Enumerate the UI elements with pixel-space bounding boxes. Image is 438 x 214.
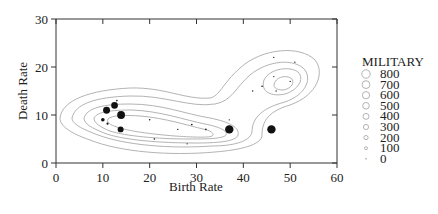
y-tick-label: 10 [35, 108, 48, 123]
data-point [294, 62, 295, 63]
data-point [225, 125, 233, 133]
data-point [154, 138, 156, 140]
x-tick-label: 60 [331, 170, 344, 185]
data-point [117, 111, 125, 119]
data-point [191, 124, 193, 126]
data-point [267, 125, 275, 133]
x-axis-title: Birth Rate [169, 179, 223, 194]
x-tick-label: 40 [237, 170, 250, 185]
data-point [205, 129, 207, 131]
legend-label: 0 [380, 151, 387, 166]
data-point [273, 76, 274, 77]
contour-scatter-chart: 01020304050600102030 Birth Rate Death Ra… [0, 0, 438, 214]
x-tick-label: 50 [284, 170, 297, 185]
x-tick-label: 0 [53, 170, 60, 185]
legend-marker-icon [363, 124, 368, 129]
y-tick-label: 20 [35, 60, 48, 75]
axes [56, 19, 337, 163]
legend-marker-icon [366, 158, 367, 159]
density-contours [60, 51, 319, 154]
data-point [186, 143, 187, 144]
data-point [229, 119, 230, 120]
legend-marker-icon [365, 147, 368, 150]
data-point [118, 126, 124, 132]
data-point [111, 102, 118, 109]
data-point [261, 85, 263, 87]
data-point [116, 100, 118, 102]
legend: MILITARY 8007006005004003002001000 [362, 54, 425, 166]
data-point [103, 107, 110, 114]
data-point [177, 129, 178, 130]
legend-marker-icon [362, 70, 370, 78]
y-tick-label: 30 [35, 12, 48, 27]
legend-marker-icon [363, 113, 369, 119]
x-tick-label: 10 [96, 170, 109, 185]
data-point [106, 123, 108, 125]
x-tick-label: 20 [143, 170, 156, 185]
ticks [51, 19, 337, 168]
tick-labels: 01020304050600102030 [35, 12, 344, 186]
legend-marker-icon [364, 136, 368, 140]
legend-marker-icon [363, 102, 370, 109]
data-point [275, 90, 276, 91]
data-point [101, 118, 105, 122]
data-point [149, 119, 151, 121]
data-point [290, 81, 291, 82]
legend-marker-icon [362, 81, 370, 89]
data-points [101, 57, 295, 145]
legend-items: 8007006005004003002001000 [362, 66, 400, 166]
legend-marker-icon [362, 92, 369, 99]
y-axis-title: Death Rate [15, 62, 30, 120]
data-point [273, 57, 274, 58]
data-point [252, 90, 253, 91]
y-tick-label: 0 [42, 156, 49, 171]
